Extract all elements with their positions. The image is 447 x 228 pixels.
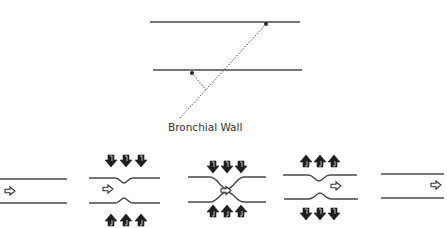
- pressure-down-arrow-icon: [314, 208, 326, 220]
- pressure-down-arrow-icon: [207, 161, 219, 173]
- panel-re-opening: [283, 155, 358, 220]
- pressure-down-arrow-icon: [328, 208, 340, 220]
- airflow-arrow-icon: [103, 185, 113, 193]
- pressure-down-arrow-icon: [120, 155, 132, 167]
- panel-open-airway-start: [0, 179, 67, 203]
- pressure-up-arrow-icon: [207, 205, 219, 217]
- pressure-up-arrow-icon: [300, 155, 312, 167]
- bronchial-wall-diagram: Bronchial Wall: [0, 0, 447, 228]
- pressure-up-arrow-icon: [235, 205, 247, 217]
- airflow-arrow-icon: [5, 187, 15, 195]
- bronchial-wall-label: Bronchial Wall: [168, 121, 242, 133]
- pressure-up-arrow-icon: [314, 155, 326, 167]
- airflow-arrow-icon: [331, 182, 341, 190]
- pressure-down-arrow-icon: [105, 155, 117, 167]
- pressure-up-arrow-icon: [105, 214, 117, 226]
- pressure-down-arrow-icon: [300, 208, 312, 220]
- pressure-down-arrow-icon: [135, 155, 147, 167]
- panel-2-lower-wall: [89, 198, 160, 203]
- pressure-up-arrow-icon: [221, 205, 233, 217]
- pointer-line-branch: [192, 73, 206, 90]
- panel-open-airway-end: [381, 174, 444, 198]
- panel-2-upper-wall: [89, 178, 160, 183]
- pressure-down-arrow-icon: [235, 161, 247, 173]
- pressure-up-arrow-icon: [328, 155, 340, 167]
- top-figure: Bronchial Wall: [150, 22, 302, 133]
- pressure-up-arrow-icon: [135, 214, 147, 226]
- panel-4-upper-wall: [283, 175, 357, 181]
- panel-early-compression: [89, 155, 160, 226]
- panel-airway-collapse: [188, 161, 266, 217]
- pressure-down-arrow-icon: [221, 161, 233, 173]
- pointer-line-main: [180, 24, 266, 118]
- panel-4-lower-wall: [284, 193, 358, 199]
- pressure-up-arrow-icon: [120, 214, 132, 226]
- airflow-arrow-icon: [431, 181, 441, 189]
